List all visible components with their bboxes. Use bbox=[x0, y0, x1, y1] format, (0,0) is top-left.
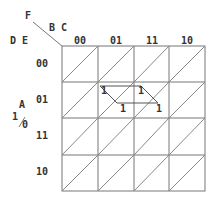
col-header-01: 01 bbox=[110, 35, 122, 46]
group-outline bbox=[100, 86, 158, 103]
col-header-11: 11 bbox=[146, 35, 158, 46]
col-header-00: 00 bbox=[74, 35, 86, 46]
label-bc: B C bbox=[49, 22, 67, 33]
cell-value: 1 bbox=[156, 103, 162, 114]
col-header-10: 10 bbox=[181, 35, 193, 46]
row-header-11: 11 bbox=[36, 130, 48, 141]
cell-value: 1 bbox=[138, 85, 144, 96]
cell-value: 1 bbox=[120, 103, 126, 114]
karnaugh-map: F B C D E 00 01 11 10 00 01 11 10 A 1 0 bbox=[0, 0, 213, 199]
row-header-01: 01 bbox=[36, 94, 48, 105]
label-f: F bbox=[25, 10, 31, 21]
label-a: A bbox=[19, 99, 25, 110]
label-a-one: 1 bbox=[12, 111, 18, 122]
cell-value: 1 bbox=[101, 85, 107, 96]
row-header-00: 00 bbox=[36, 58, 48, 69]
row-header-10: 10 bbox=[36, 166, 48, 177]
label-a-zero: 0 bbox=[22, 119, 28, 130]
label-de: D E bbox=[10, 35, 28, 46]
